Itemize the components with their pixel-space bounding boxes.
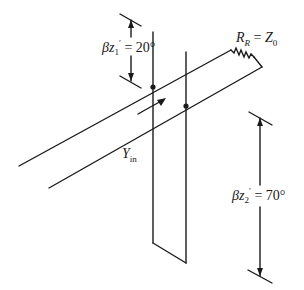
stub-distance-label: βz1′ = 20° xyxy=(102,38,155,57)
main-line-lower xyxy=(49,67,262,188)
load-resistor xyxy=(231,48,254,58)
junction-dot-1 xyxy=(150,84,155,89)
stub-diagram: βz1′ = 20° RR = Z0 Yin βz2′ = 70° xyxy=(0,0,304,290)
stub-length-label: βz2′ = 70° xyxy=(232,186,285,205)
stub-short xyxy=(153,243,186,263)
junction-dot-2 xyxy=(183,103,188,108)
input-admittance-label: Yin xyxy=(122,146,137,164)
load-label: RR = Z0 xyxy=(236,30,277,48)
